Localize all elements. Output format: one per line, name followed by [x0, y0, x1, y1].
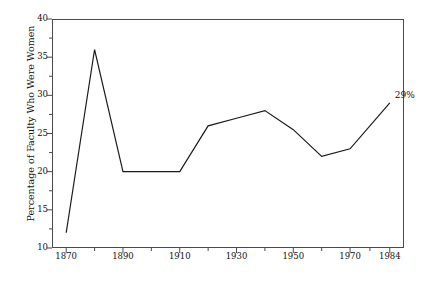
chart-figure: 40353025201510 1870189019101930195019701…	[0, 0, 426, 285]
y-axis-tick-label: 10	[24, 243, 48, 252]
x-axis-tick-label: 1870	[46, 252, 86, 261]
x-axis-tick-label: 1930	[217, 252, 257, 261]
y-axis-tick-label: 40	[24, 14, 48, 23]
plot-frame	[52, 19, 404, 248]
x-axis-tick-label: 1890	[103, 252, 143, 261]
endpoint-value-annotation: 29%	[395, 90, 415, 100]
x-axis-tick-label: 1910	[160, 252, 200, 261]
x-axis-tick-label: 1970	[330, 252, 370, 261]
x-axis-tick-label: 1984	[370, 252, 410, 261]
x-axis-tick-label: 1950	[273, 252, 313, 261]
y-axis-title: Percentage of Faculty Who Were Women	[25, 24, 36, 224]
